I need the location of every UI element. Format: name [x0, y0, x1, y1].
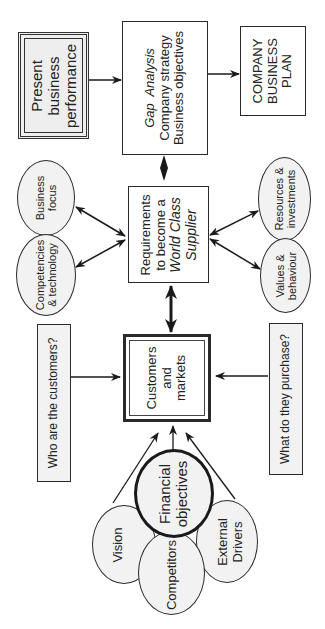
plan-line-3: PLAN	[280, 38, 295, 104]
gap-line-business-objectives: Business objectives	[172, 31, 187, 145]
values-line-2: behaviour	[286, 251, 298, 299]
competencies-ellipse: Competencies & technology	[16, 234, 76, 316]
requirements-line-1: Requirements	[138, 194, 153, 275]
requirements-line-4: Supplier	[183, 194, 199, 275]
values-line-1: Values &	[273, 251, 285, 299]
customers-line-2: and	[160, 347, 175, 410]
external-line-1: External	[216, 518, 231, 566]
financial-line-2: objectives	[174, 460, 191, 527]
business-focus-line-1: Business	[34, 176, 46, 221]
customers-line-1: Customers	[145, 347, 160, 410]
competencies-line-1: Competencies	[34, 240, 46, 310]
competencies-line-2: & technology	[46, 240, 58, 310]
financial-objectives-ellipse: Financial objectives	[134, 449, 214, 538]
business-focus-ellipse: Business focus	[17, 160, 75, 236]
competitors-label: Competitors	[164, 540, 179, 610]
business-focus-line-2: focus	[46, 176, 58, 221]
customers-and-markets-box: Customers and markets	[123, 334, 211, 422]
arrow-competencies-requirements	[76, 240, 125, 267]
requirements-box: Requirements to become a World Class Sup…	[128, 186, 209, 283]
resources-line-1: Resources &	[272, 168, 284, 231]
requirements-line-2: to become a	[153, 194, 168, 275]
present-line-3: performance	[62, 43, 79, 127]
values-ellipse: Values & behaviour	[260, 238, 311, 313]
arrow-requirements-resources	[210, 211, 258, 235]
requirements-line-3: World Class	[167, 194, 183, 275]
arrow-requirements-values	[210, 239, 260, 269]
world-class-supplier-diagram: Present business performance Gap Analysi…	[0, 0, 325, 629]
resources-ellipse: Resources & investments	[258, 157, 311, 241]
plan-line-1: COMPANY	[251, 38, 266, 104]
customers-line-3: markets	[174, 347, 189, 410]
present-line-2: business	[45, 43, 62, 127]
what-do-they-purchase-box: What do they purchase?	[269, 323, 303, 475]
who-label: Who are the customers?	[47, 338, 60, 469]
financial-line-1: Financial	[157, 460, 174, 527]
arrow-gap-requirements	[160, 155, 168, 181]
company-business-plan-box: COMPANY BUSINESS PLAN	[240, 26, 306, 116]
gap-analysis-box: Gap Analysis Company strategy Business o…	[122, 21, 208, 155]
gap-line-company-strategy: Company strategy	[158, 31, 173, 145]
resources-line-2: investments	[285, 168, 297, 231]
arrow-business-focus-requirements	[76, 207, 125, 236]
what-label: What do they purchase?	[279, 334, 292, 464]
plan-line-2: BUSINESS	[266, 38, 281, 104]
present-business-performance-box: Present business performance	[18, 32, 89, 139]
present-line-1: Present	[28, 43, 45, 127]
external-line-2: Drivers	[231, 518, 246, 566]
competitors-ellipse: Competitors	[138, 531, 205, 615]
vision-label: Vision	[111, 527, 126, 562]
gap-analysis-title: Gap Analysis	[143, 31, 158, 145]
who-are-the-customers-box: Who are the customers?	[37, 324, 71, 482]
